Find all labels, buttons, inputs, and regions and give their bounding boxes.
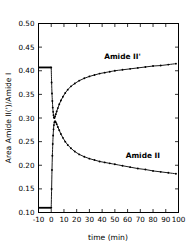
data-point-marker — [160, 65, 162, 67]
data-point-marker — [70, 147, 72, 149]
data-point-marker — [114, 70, 116, 72]
series-1 — [39, 63, 177, 119]
data-point-marker — [129, 166, 131, 168]
y-tick-label: 0.50 — [18, 19, 34, 28]
data-point-marker — [51, 82, 53, 84]
data-point-marker — [52, 143, 54, 145]
data-point-marker — [55, 121, 57, 123]
data-point-marker — [57, 126, 59, 128]
data-point-marker — [64, 141, 66, 143]
data-point-marker — [129, 68, 131, 70]
data-point-marker — [51, 92, 53, 94]
data-point-marker — [114, 163, 116, 165]
data-point-marker — [53, 128, 55, 130]
data-point-marker — [144, 66, 146, 68]
data-point-marker — [52, 135, 54, 137]
curve-label: Amide II — [126, 151, 161, 160]
data-point-marker — [74, 83, 76, 85]
data-point-marker — [167, 64, 169, 66]
x-axis-title: time (min) — [88, 233, 128, 242]
data-point-marker — [58, 103, 60, 105]
y-tick-label: 0.35 — [18, 90, 34, 99]
data-point-marker — [144, 169, 146, 171]
y-axis-title: Area Amide II(')/Amide I — [4, 73, 13, 163]
data-point-marker — [67, 89, 69, 91]
x-tick-label: 10 — [59, 215, 69, 224]
data-point-marker — [53, 114, 55, 116]
data-point-marker — [50, 207, 52, 209]
data-point-marker — [56, 110, 58, 112]
x-axis-tick-labels: -100102030405060708090100 — [33, 215, 186, 224]
data-point-marker — [74, 151, 76, 153]
data-point-marker — [60, 133, 62, 135]
data-point-marker — [57, 107, 59, 109]
data-point-marker — [83, 77, 85, 79]
data-point-marker — [64, 92, 66, 94]
data-point-marker — [109, 162, 111, 164]
data-point-marker — [122, 69, 124, 71]
data-point-marker — [54, 116, 56, 118]
x-tick-label: -10 — [33, 215, 45, 224]
x-tick-label: 80 — [148, 215, 158, 224]
data-point-marker — [99, 161, 101, 163]
y-tick-label: 0.45 — [18, 43, 34, 52]
data-point-marker — [56, 123, 58, 125]
data-point-marker — [62, 137, 64, 139]
data-point-marker — [70, 85, 72, 87]
data-point-marker — [55, 113, 57, 115]
data-point-marker — [52, 111, 54, 113]
data-point-marker — [137, 168, 139, 170]
chart-canvas: 0.100.150.200.250.300.350.400.450.50 -10… — [0, 0, 192, 250]
data-point-marker — [94, 159, 96, 161]
x-tick-label: 50 — [110, 215, 120, 224]
data-point-marker — [51, 155, 53, 157]
x-tick-label: 20 — [72, 215, 82, 224]
data-point-marker — [175, 63, 177, 65]
y-tick-label: 0.30 — [18, 114, 34, 123]
x-tick-label: 40 — [98, 215, 108, 224]
data-point-marker — [51, 169, 53, 171]
data-point-marker — [122, 165, 124, 167]
curve-label: Amide II' — [104, 52, 141, 61]
data-point-marker — [83, 156, 85, 158]
y-tick-label: 0.15 — [18, 184, 34, 193]
data-point-marker — [51, 100, 53, 102]
data-point-marker — [60, 100, 62, 102]
data-point-marker — [99, 73, 101, 75]
data-point-marker — [152, 170, 154, 172]
y-tick-label: 0.20 — [18, 161, 34, 170]
series-line — [51, 64, 176, 118]
data-point-marker — [50, 66, 52, 68]
data-point-marker — [167, 172, 169, 174]
x-tick-label: 70 — [136, 215, 146, 224]
data-point-marker — [152, 65, 154, 67]
data-point-marker — [137, 67, 139, 69]
chart-figure: 0.100.150.200.250.300.350.400.450.50 -10… — [0, 0, 192, 250]
x-tick-label: 60 — [123, 215, 133, 224]
data-point-marker — [88, 75, 90, 77]
data-point-marker — [78, 80, 80, 82]
data-point-marker — [52, 107, 54, 109]
y-axis-tick-labels: 0.100.150.200.250.300.350.400.450.50 — [18, 19, 34, 217]
data-point-marker — [175, 173, 177, 175]
data-point-marker — [104, 72, 106, 74]
y-tick-label: 0.40 — [18, 66, 34, 75]
data-point-marker — [53, 124, 55, 126]
series-line — [51, 121, 176, 207]
x-tick-label: 90 — [161, 215, 171, 224]
data-point-marker — [94, 74, 96, 76]
x-tick-label: 100 — [172, 215, 186, 224]
data-point-marker — [104, 161, 106, 163]
data-point-marker — [62, 96, 64, 98]
data-point-marker — [78, 153, 80, 155]
data-point-marker — [58, 129, 60, 131]
x-tick-label: 0 — [49, 215, 54, 224]
data-point-marker — [67, 144, 69, 146]
x-tick-label: 30 — [85, 215, 95, 224]
data-point-marker — [88, 158, 90, 160]
data-point-marker — [51, 188, 53, 190]
series-2 — [39, 120, 177, 208]
data-point-marker — [109, 71, 111, 73]
data-point-marker — [160, 171, 162, 173]
data-series-group — [39, 63, 177, 209]
